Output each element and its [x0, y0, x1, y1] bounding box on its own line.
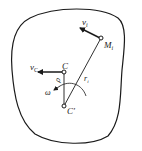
point-Mi — [99, 36, 103, 40]
label-vc: vC — [30, 62, 38, 73]
label-ri: ri — [84, 74, 89, 84]
rigid-body-outline — [12, 9, 125, 143]
omega-arrow-icon — [54, 86, 60, 90]
position-vector-ri — [64, 38, 101, 106]
diagram-canvas: vi Mi vC C ri ρ ω C′ — [0, 0, 142, 151]
point-C-prime — [62, 104, 66, 108]
label-C-prime: C′ — [67, 106, 76, 116]
velocity-vi-arrow-icon — [80, 28, 100, 38]
label-vi: vi — [82, 17, 88, 28]
label-C: C — [62, 61, 69, 71]
label-Mi: Mi — [103, 40, 114, 51]
label-rho: ρ — [52, 76, 62, 84]
label-omega: ω — [45, 88, 51, 97]
